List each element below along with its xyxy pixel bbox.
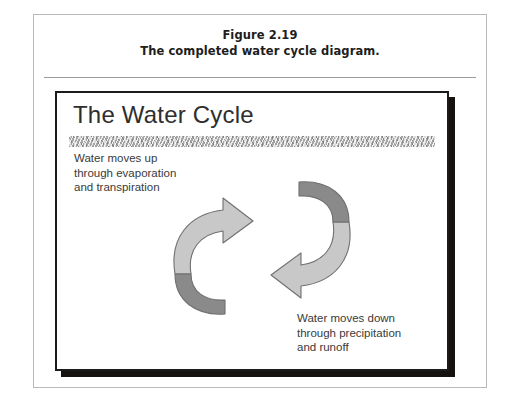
arrow-cycle-right (271, 182, 350, 298)
slide-container: The Water Cycle Water moves up through e… (55, 91, 451, 373)
title-underline-band (69, 136, 435, 147)
caption-figure-number: Figure 2.19 (34, 27, 486, 43)
figure-caption: Figure 2.19 The completed water cycle di… (34, 27, 486, 59)
caption-figure-description: The completed water cycle diagram. (34, 43, 486, 59)
figure-frame: Figure 2.19 The completed water cycle di… (33, 14, 487, 388)
text-block-evaporation: Water moves up through evaporation and t… (74, 151, 176, 195)
slide-title: The Water Cycle (73, 101, 254, 129)
text-block-precipitation: Water moves down through precipitation a… (297, 311, 401, 355)
arrow-cycle-left (174, 198, 253, 314)
caption-divider (44, 77, 476, 78)
presentation-slide: The Water Cycle Water moves up through e… (55, 91, 449, 371)
